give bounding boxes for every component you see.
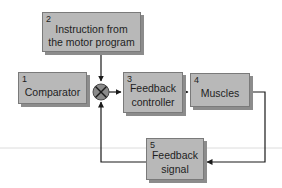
node-feedback-controller: 3 Feedback controller (123, 72, 183, 113)
node-feedback-signal: 5 Feedback signal (146, 138, 204, 180)
node-label-line1: Comparator (19, 86, 86, 99)
node-label-line2: controller (124, 96, 182, 109)
node-comparator: 1 Comparator (18, 72, 87, 104)
node-label-line1: Feedback (124, 82, 182, 95)
node-label-line1: Muscles (191, 87, 249, 100)
node-number: 4 (194, 75, 199, 85)
node-label-line1: Instruction from (43, 23, 140, 36)
cross-circle-icon (93, 84, 109, 100)
node-instruction-from-motor-program: 2 Instruction from the motor program (42, 12, 141, 52)
node-muscles: 4 Muscles (190, 73, 250, 107)
node-label-line2: the motor program (43, 36, 140, 49)
node-number: 1 (22, 74, 27, 84)
feedback-control-diagram: 2 Instruction from the motor program 1 C… (0, 0, 282, 188)
node-label-line2: signal (147, 163, 203, 176)
node-label-line1: Feedback (147, 149, 203, 162)
